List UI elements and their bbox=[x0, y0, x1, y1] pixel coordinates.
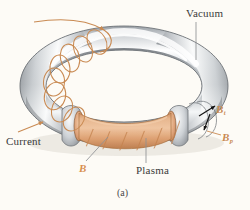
b-poloidal-symbol: B bbox=[222, 131, 229, 143]
b-poloidal-label: Bp bbox=[222, 132, 233, 143]
b-toroidal-label: Bt bbox=[216, 104, 225, 115]
tokamak-figure: Vacuum Current Plasma B Bt Bp (a) bbox=[0, 0, 250, 210]
current-label-arrow bbox=[18, 122, 43, 132]
plasma-label: Plasma bbox=[136, 165, 169, 176]
b-poloidal-leader bbox=[207, 131, 221, 135]
current-label: Current bbox=[6, 136, 41, 147]
b-toroidal-symbol: B bbox=[216, 103, 223, 115]
b-poloidal-subscript: p bbox=[230, 137, 233, 144]
vacuum-label: Vacuum bbox=[186, 8, 223, 19]
magnetic-field-label: B bbox=[79, 163, 86, 174]
torus-diagram-svg bbox=[0, 0, 250, 210]
figure-caption: (a) bbox=[117, 188, 128, 198]
